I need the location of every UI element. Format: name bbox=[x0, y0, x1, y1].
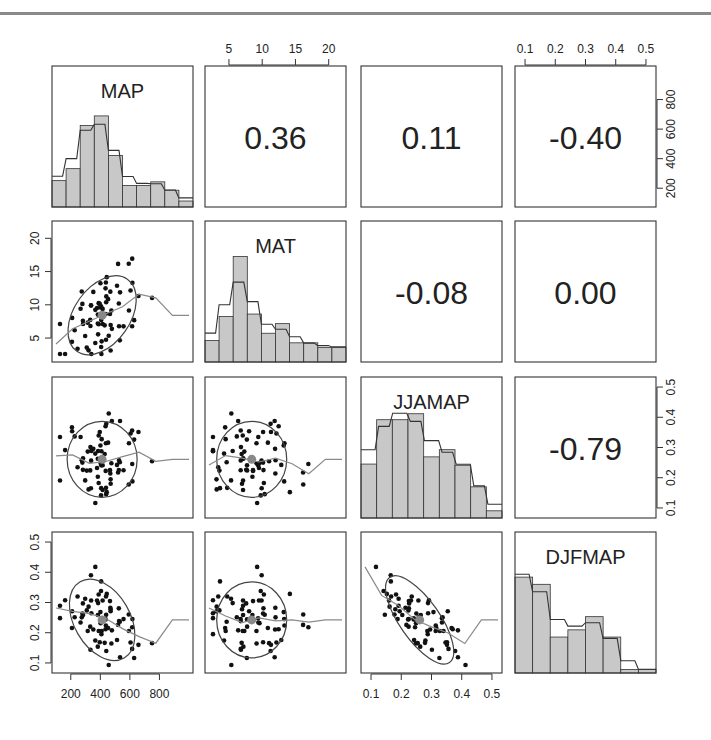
tick-label: 15 bbox=[289, 42, 303, 56]
data-point bbox=[301, 482, 306, 487]
histogram-bar bbox=[515, 577, 533, 673]
data-point bbox=[58, 322, 63, 327]
data-point bbox=[81, 601, 86, 606]
data-point bbox=[211, 616, 216, 621]
tick-label: 400 bbox=[664, 148, 678, 168]
variable-label: MAP bbox=[101, 80, 144, 102]
data-point bbox=[446, 647, 451, 652]
data-point bbox=[80, 302, 85, 307]
data-point bbox=[97, 640, 102, 645]
data-point bbox=[78, 620, 83, 625]
data-point bbox=[223, 629, 228, 634]
tick-label: 0.1 bbox=[363, 687, 380, 701]
data-point bbox=[104, 280, 109, 285]
data-point bbox=[108, 477, 113, 482]
data-point bbox=[117, 324, 122, 329]
data-point bbox=[128, 288, 133, 293]
data-point bbox=[262, 612, 267, 617]
data-point bbox=[106, 626, 111, 631]
histogram-bar bbox=[471, 487, 487, 518]
data-point bbox=[229, 663, 234, 668]
correlation-value: -0.08 bbox=[395, 275, 468, 311]
histogram-bar bbox=[318, 348, 332, 362]
histogram-bar bbox=[408, 414, 424, 518]
data-point bbox=[230, 601, 235, 606]
panel-MAP-MAP: MAP bbox=[52, 66, 193, 207]
data-point bbox=[93, 341, 98, 346]
data-point bbox=[463, 663, 468, 668]
variable-label: DJFMAP bbox=[546, 546, 626, 568]
tick-label: 200 bbox=[61, 687, 81, 701]
data-point bbox=[106, 663, 111, 668]
data-point bbox=[116, 470, 121, 475]
tick-label: 200 bbox=[664, 178, 678, 198]
data-point bbox=[136, 643, 141, 648]
data-point bbox=[262, 592, 267, 597]
data-point bbox=[240, 607, 245, 612]
data-point bbox=[218, 579, 223, 584]
data-point bbox=[109, 641, 114, 646]
histogram-bar bbox=[392, 420, 408, 518]
panel-MAP-DJFMAP: -0.40 bbox=[515, 66, 656, 207]
data-point bbox=[108, 348, 113, 353]
tick-label: 0.4 bbox=[28, 564, 42, 581]
data-point bbox=[288, 490, 293, 495]
data-point bbox=[58, 352, 63, 357]
data-point bbox=[75, 465, 80, 470]
data-point bbox=[301, 612, 306, 617]
histogram-bar bbox=[179, 201, 193, 207]
data-point bbox=[306, 625, 311, 630]
data-point bbox=[58, 478, 63, 483]
data-point bbox=[245, 624, 250, 629]
data-point bbox=[256, 620, 261, 625]
data-point bbox=[89, 449, 94, 454]
data-point bbox=[423, 641, 428, 646]
data-point bbox=[108, 289, 113, 294]
data-point bbox=[282, 479, 287, 484]
data-point bbox=[115, 638, 120, 643]
data-point bbox=[240, 481, 245, 486]
data-point bbox=[456, 628, 461, 633]
data-point bbox=[262, 481, 267, 486]
data-point bbox=[236, 419, 241, 424]
data-point bbox=[214, 477, 219, 482]
data-point bbox=[116, 262, 121, 267]
panel-frame bbox=[52, 532, 193, 673]
data-point bbox=[99, 339, 104, 344]
data-point bbox=[223, 425, 228, 430]
data-point bbox=[261, 430, 266, 435]
data-point bbox=[102, 641, 107, 646]
data-point bbox=[374, 565, 379, 570]
smooth-line bbox=[56, 608, 189, 643]
histogram-bar bbox=[486, 511, 502, 518]
data-point bbox=[254, 629, 259, 634]
tick-label: 0.3 bbox=[664, 439, 678, 456]
data-point bbox=[245, 468, 250, 473]
panel-JJAMAP-MAT bbox=[205, 377, 346, 518]
data-point bbox=[306, 462, 311, 467]
data-point bbox=[404, 623, 409, 628]
tick-label: 0.1 bbox=[664, 499, 678, 516]
histogram-bar bbox=[247, 314, 261, 362]
axis-JJAMAP-bottom: 0.10.20.30.40.5 bbox=[363, 674, 501, 701]
data-point bbox=[95, 644, 100, 649]
data-point bbox=[93, 565, 98, 570]
data-point bbox=[58, 603, 63, 608]
data-point bbox=[86, 604, 91, 609]
histogram-bar bbox=[205, 340, 219, 362]
smooth-line bbox=[56, 452, 189, 463]
data-point bbox=[229, 478, 234, 483]
tick-label: 400 bbox=[90, 687, 110, 701]
data-point bbox=[437, 656, 442, 661]
tick-label: 0.2 bbox=[393, 687, 410, 701]
smooth-line bbox=[209, 456, 342, 474]
data-point bbox=[266, 440, 271, 445]
data-point bbox=[251, 599, 256, 604]
data-point bbox=[106, 440, 111, 445]
data-point bbox=[132, 656, 137, 661]
tick-label: 0.2 bbox=[28, 624, 42, 641]
data-point bbox=[97, 430, 102, 435]
data-point bbox=[95, 598, 100, 603]
data-point bbox=[273, 471, 278, 476]
histogram-bar bbox=[550, 637, 568, 673]
